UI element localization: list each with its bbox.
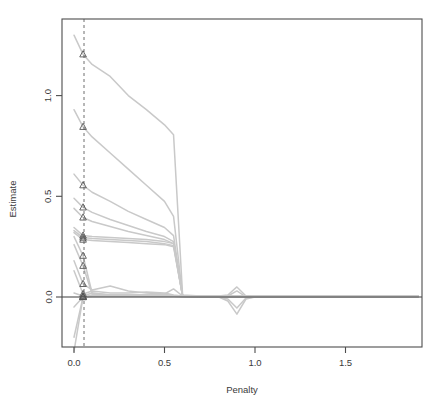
x-tick-label: 0.5 <box>158 357 171 368</box>
plot-background <box>0 0 435 413</box>
y-tick-label: 0.0 <box>43 290 54 303</box>
regularization-path-plot: 1.0 0.5 0.0 0.0 0.5 1.0 1.5 Penalty Esti… <box>0 0 435 413</box>
x-axis-title: Penalty <box>226 384 258 395</box>
plot-canvas: 1.0 0.5 0.0 0.0 0.5 1.0 1.5 Penalty Esti… <box>0 0 435 413</box>
x-tick-label: 1.5 <box>339 357 352 368</box>
y-axis-title: Estimate <box>7 181 18 218</box>
y-tick-label: 0.5 <box>43 190 54 203</box>
x-tick-label: 0.0 <box>67 357 80 368</box>
y-tick-label: 1.0 <box>43 89 54 102</box>
x-tick-label: 1.0 <box>248 357 261 368</box>
